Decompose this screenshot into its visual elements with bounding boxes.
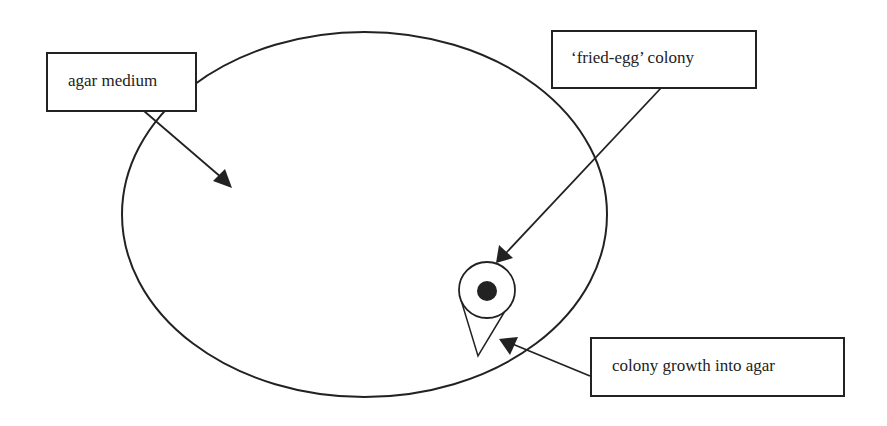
fried-egg-arrow bbox=[496, 88, 661, 263]
growth-arrow bbox=[499, 337, 590, 376]
agar-medium-label-box: agar medium bbox=[46, 52, 197, 112]
colony-growth-label: colony growth into agar bbox=[612, 356, 775, 376]
fried-egg-label: ‘fried-egg’ colony bbox=[571, 48, 694, 68]
colony-growth-label-box: colony growth into agar bbox=[590, 337, 845, 397]
agar-arrow bbox=[144, 111, 232, 188]
fried-egg-label-box: ‘fried-egg’ colony bbox=[551, 30, 757, 89]
agar-medium-label: agar medium bbox=[68, 71, 157, 91]
colony-center-dot bbox=[477, 281, 497, 301]
